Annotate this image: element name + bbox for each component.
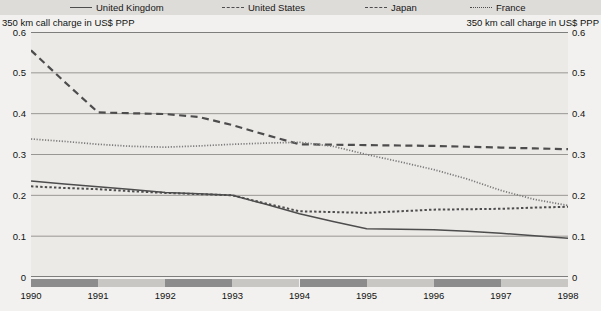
legend-label: Japan (391, 0, 417, 15)
series-line-united-states (31, 186, 568, 213)
y-axis-tick-label: 0.5 (572, 67, 600, 78)
x-axis-band (501, 279, 568, 287)
x-axis-tick-label: 1994 (280, 290, 320, 301)
legend-swatch-solid-icon (70, 4, 92, 11)
x-axis-tick-label: 1995 (347, 290, 387, 301)
x-axis-band (31, 279, 98, 287)
x-axis-band (300, 279, 367, 287)
x-axis-band (367, 279, 434, 287)
x-axis-band-strip (31, 279, 568, 287)
x-axis-tick-label: 1996 (414, 290, 454, 301)
y-axis-tick-label: 0 (572, 272, 600, 283)
legend-swatch-dotted-icon (470, 4, 492, 11)
x-axis-band (232, 279, 299, 287)
x-axis-tick-label: 1991 (78, 290, 118, 301)
legend-swatch-dashed-short-icon (222, 4, 244, 11)
y-axis-tick-label: 0.1 (0, 231, 26, 242)
series-line-japan (31, 50, 568, 149)
legend-item-japan: Japan (365, 0, 417, 15)
legend-label: United States (248, 0, 305, 15)
legend-item-france: France (470, 0, 526, 15)
x-axis-tick-label: 1992 (145, 290, 185, 301)
legend-item-united-states: United States (222, 0, 305, 15)
x-axis-band (165, 279, 232, 287)
x-axis-tick-label: 1997 (481, 290, 521, 301)
x-axis-band (434, 279, 501, 287)
x-axis-band (98, 279, 165, 287)
x-axis-tick-label: 1998 (548, 290, 588, 301)
y-axis-tick-label: 0.6 (572, 27, 600, 38)
y-axis-tick-label: 0.6 (0, 27, 26, 38)
x-axis-tick-label: 1993 (212, 290, 252, 301)
y-axis-tick-label: 0.4 (0, 108, 26, 119)
y-axis-tick-label: 0.5 (0, 67, 26, 78)
y-axis-tick-label: 0.2 (572, 190, 600, 201)
y-axis-tick-label: 0 (0, 272, 26, 283)
chart-legend: United Kingdom United States Japan Franc… (0, 0, 601, 15)
line-chart-svg (31, 32, 568, 277)
series-line-united-kingdom (31, 181, 568, 238)
legend-item-united-kingdom: United Kingdom (70, 0, 164, 15)
y-axis-tick-label: 0.1 (572, 231, 600, 242)
y-axis-tick-label: 0.2 (0, 190, 26, 201)
legend-swatch-dashed-long-icon (365, 4, 387, 11)
y-axis-tick-label: 0.4 (572, 108, 600, 119)
legend-label: United Kingdom (96, 0, 164, 15)
x-axis-tick-label: 1990 (11, 290, 51, 301)
legend-label: France (496, 0, 526, 15)
chart-plot-area (31, 32, 568, 277)
y-axis-tick-label: 0.3 (0, 149, 26, 160)
y-axis-tick-label: 0.3 (572, 149, 600, 160)
